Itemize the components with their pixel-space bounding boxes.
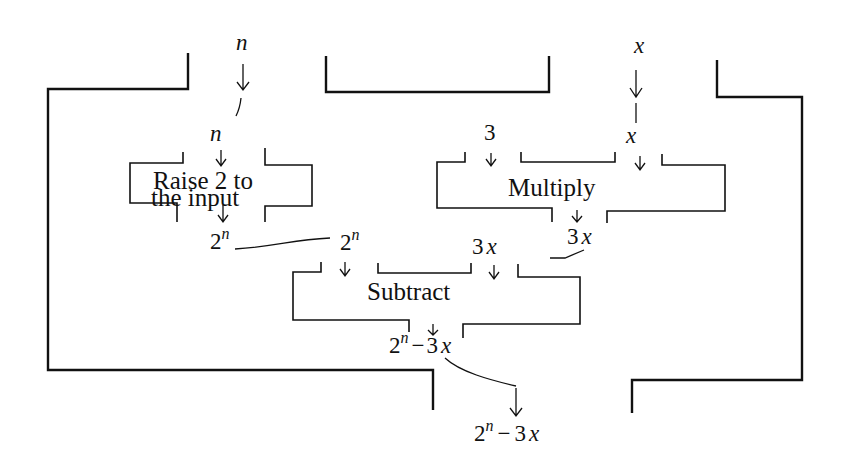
final-output: 2n−3x: [474, 417, 540, 446]
raise-label-line2: the input: [151, 184, 239, 211]
arrow-down-icon: [216, 150, 226, 166]
multiply-label: Multiply: [508, 174, 596, 201]
subtract-input-2n: 2n: [340, 226, 360, 255]
raise-input-n: n: [210, 121, 222, 146]
subtract-output: 2n−3x: [389, 329, 452, 358]
arrow-down-icon: [237, 64, 249, 90]
outer-machine-frame: [48, 53, 802, 413]
outer-input-x: x: [633, 33, 645, 58]
arrow-down-icon: [572, 210, 582, 222]
subtract-label: Subtract: [367, 278, 450, 305]
arrow-down-icon: [486, 153, 496, 166]
function-machine-diagram: n x n 3 x Raise 2 to the input Multiply …: [0, 0, 846, 471]
arrow-down-icon: [340, 262, 350, 276]
arrow-down-icon: [510, 388, 522, 416]
arrow-down-icon: [489, 265, 499, 279]
constant-3: 3: [484, 120, 496, 145]
outer-input-n: n: [236, 30, 248, 55]
multiply-output: 3x: [567, 224, 593, 249]
multiply-input-x: x: [625, 123, 637, 148]
subtract-input-3x: 3x: [472, 234, 498, 259]
arrow-down-icon: [635, 156, 645, 170]
raise-output: 2n: [210, 225, 230, 254]
arrow-down-icon: [630, 70, 642, 97]
